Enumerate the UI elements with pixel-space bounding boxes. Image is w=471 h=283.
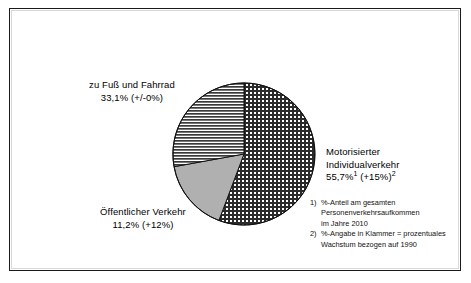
pie-label-motor-line1: Motorisierter <box>326 146 466 159</box>
footnote-2: 2) %-Angabe in Klammer = prozentuales Wa… <box>310 229 470 250</box>
footnote-2-line-1: %-Angabe in Klammer = prozentuales <box>321 229 470 239</box>
footnotes-block: 1) %-Anteil am gesamten Personenverkehrs… <box>310 198 470 250</box>
pie-label-zu-fuss-und-fahrrad: zu Fuß und Fahrrad 33,1% (+/-0%) <box>68 79 196 104</box>
pie-label-motor-value: 55,7%1 (+15%)2 <box>326 171 466 184</box>
pie-chart-figure: zu Fuß und Fahrrad 33,1% (+/-0%) Öffentl… <box>0 0 471 283</box>
footnote-1-marker: 1) <box>310 198 317 208</box>
footnote-ref-2: 2 <box>392 170 396 177</box>
chart-frame-border: zu Fuß und Fahrrad 33,1% (+/-0%) Öffentl… <box>9 8 461 271</box>
footnote-1-line-3: im Jahre 2010 <box>321 219 470 229</box>
footnote-2-marker: 2) <box>310 229 317 239</box>
pie-label-motor-line2: Individualverkehr <box>326 159 466 172</box>
pie-label-motor-value-prefix: 55,7% <box>326 171 353 182</box>
pie-label-public-value: 11,2% (+12%) <box>73 219 213 232</box>
pie-label-walk-value: 33,1% (+/-0%) <box>68 92 196 105</box>
footnote-2-line-2: Wachstum bezogen auf 1990 <box>321 240 470 250</box>
pie-label-motor-value-suffix: (+15%) <box>357 171 391 182</box>
pie-label-oeffentlicher-verkehr: Öffentlicher Verkehr 11,2% (+12%) <box>73 206 213 231</box>
footnote-1: 1) %-Anteil am gesamten Personenverkehrs… <box>310 198 470 229</box>
pie-label-public-name: Öffentlicher Verkehr <box>73 206 213 219</box>
pie-label-motorisierter-individualverkehr: Motorisierter Individualverkehr 55,7%1 (… <box>326 146 466 184</box>
footnote-1-line-2: Personenverkehrsaufkommen <box>321 208 470 218</box>
pie-label-walk-name: zu Fuß und Fahrrad <box>68 79 196 92</box>
footnote-1-line-1: %-Anteil am gesamten <box>321 198 470 208</box>
